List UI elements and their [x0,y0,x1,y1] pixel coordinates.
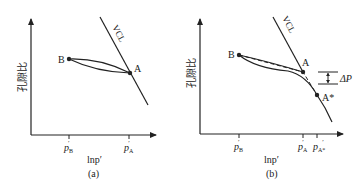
tick-label-pb: pB′ [63,139,73,154]
y-axis-label: 孔隙比 [16,62,28,92]
y-axis-label: 孔隙比 [185,58,197,88]
vcl-line [100,17,148,105]
panel-a: 孔隙比 VCL B A pB′ pA′ lnp′ (a) [16,17,156,180]
panel-b: 孔隙比 VCL B A A* ΔP pB′ pA′ pA*′ lnp′ (b) [185,14,352,180]
point-a [301,70,305,74]
tick-label-pa: pA′ [123,139,134,154]
reload-curve [69,59,130,73]
panel-caption: (a) [88,168,99,180]
point-b [237,53,241,57]
vcl-label: VCL [280,14,297,35]
diagram-canvas: 孔隙比 VCL B A pB′ pA′ lnp′ (a) 孔隙比 VCL B A… [0,0,360,191]
delta-p-bracket [318,72,338,84]
reload-curve [239,55,332,122]
point-b-label: B [228,49,235,60]
point-a-label: A [134,63,142,74]
delta-p-label: ΔP [339,73,352,84]
x-axis-label: lnp′ [87,154,102,165]
unload-curve [239,55,303,72]
point-a-label: A [302,57,310,68]
point-a-star-label: A* [322,92,334,103]
tick-label-pa-star: pA*′ [312,138,325,153]
point-b [67,57,71,61]
unload-curve [69,59,130,73]
panel-caption: (b) [266,168,278,180]
point-a-star [315,93,319,97]
tick-label-pb: pB′ [233,138,243,153]
tick-label-pa: pA′ [297,138,308,153]
point-a [128,71,132,75]
point-b-label: B [58,54,65,65]
x-axis-label: lnp′ [264,154,279,165]
